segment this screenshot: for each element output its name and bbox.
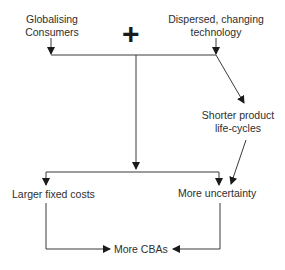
- node-label-line1: Dispersed, changing: [166, 13, 266, 26]
- node-more-uncertainty: More uncertainty: [178, 187, 256, 200]
- node-more-cbas: More CBAs: [114, 243, 168, 256]
- arrow-lifecycles-to-uncertainty: [231, 140, 246, 184]
- node-shorter-lifecycles: Shorter product life-cycles: [200, 109, 276, 134]
- arrow-to-lifecycles: [216, 55, 244, 103]
- node-label-line1: Globalising: [20, 13, 84, 26]
- node-larger-fixed-costs: Larger fixed costs: [12, 188, 95, 201]
- node-label-line2: Consumers: [20, 26, 84, 39]
- node-globalising-consumers: Globalising Consumers: [20, 13, 84, 38]
- plus-symbol: +: [122, 19, 140, 49]
- node-label-line2: technology: [166, 26, 266, 39]
- node-dispersed-technology: Dispersed, changing technology: [166, 13, 266, 38]
- diagram-connectors: [0, 0, 285, 270]
- node-label-line1: Shorter product: [200, 109, 276, 122]
- node-label-line2: life-cycles: [200, 122, 276, 135]
